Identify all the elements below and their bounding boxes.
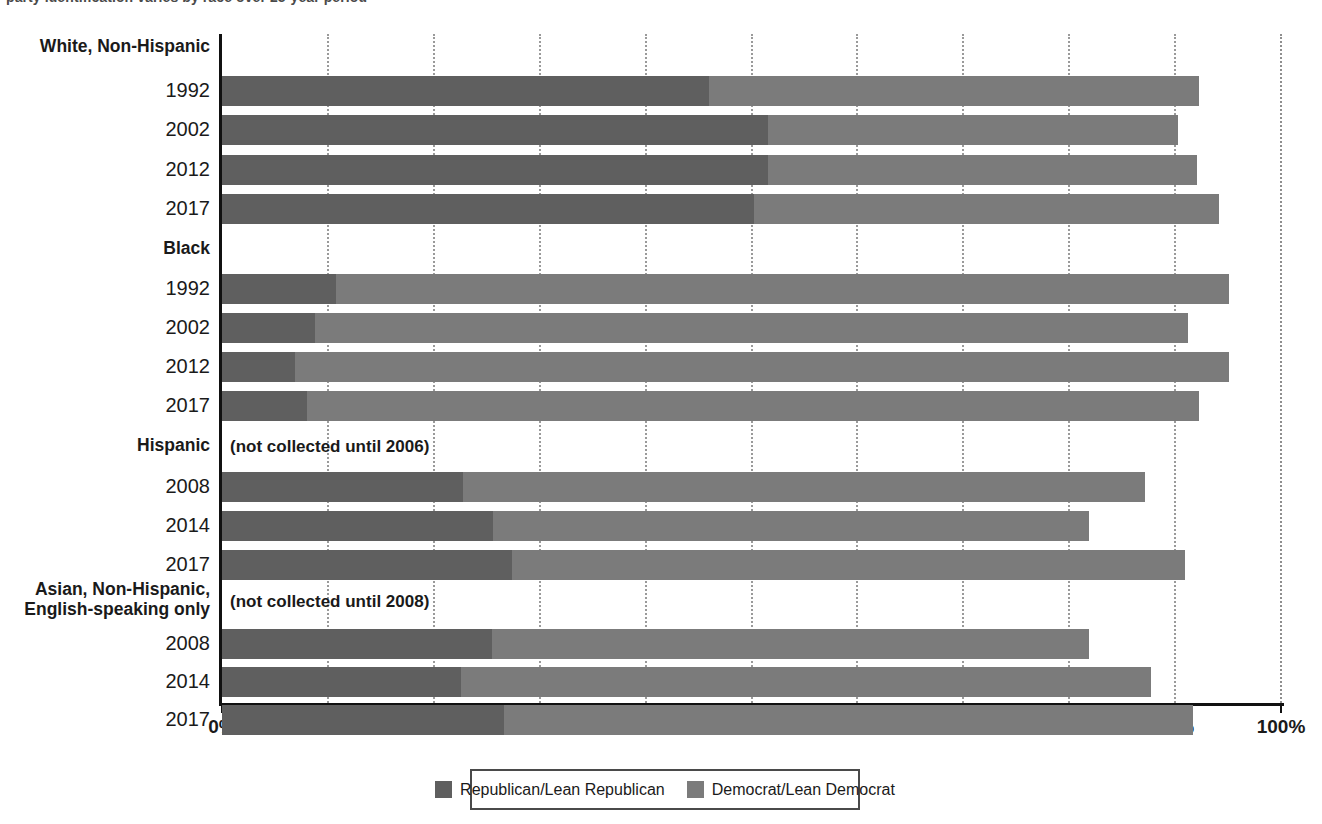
bar-segment-republican [222, 391, 307, 421]
stacked-bar [222, 352, 1229, 382]
bar-segment-republican [222, 472, 463, 502]
stacked-bar [222, 667, 1151, 697]
bar-segment-democrat [493, 511, 1089, 541]
bar-segment-democrat [512, 550, 1184, 580]
stacked-bar [222, 76, 1199, 106]
bar-segment-republican [222, 313, 315, 343]
bar-row [0, 76, 1322, 106]
bar-segment-republican [222, 194, 754, 224]
y-group-label-1: Black [163, 239, 210, 259]
bar-segment-democrat [768, 115, 1178, 145]
bar-row [0, 313, 1322, 343]
bar-segment-republican [222, 76, 709, 106]
bar-segment-democrat [709, 76, 1199, 106]
bar-row [0, 274, 1322, 304]
y-group-label-line: Asian, Non-Hispanic, [24, 580, 210, 600]
bar-row [0, 391, 1322, 421]
stacked-bar [222, 155, 1197, 185]
bar-segment-democrat [463, 472, 1145, 502]
legend-swatch-republican-icon [435, 781, 452, 798]
stacked-bar [222, 115, 1178, 145]
y-group-label-0: White, Non-Hispanic [40, 37, 210, 57]
bar-segment-republican [222, 667, 461, 697]
y-group-label-line: Hispanic [137, 436, 210, 456]
bar-segment-republican [222, 705, 504, 735]
bar-segment-democrat [754, 194, 1219, 224]
bar-segment-republican [222, 511, 493, 541]
bar-segment-republican [222, 274, 336, 304]
stacked-bar [222, 511, 1089, 541]
stacked-bar [222, 391, 1199, 421]
bar-segment-democrat [336, 274, 1229, 304]
y-group-label-line: Black [163, 239, 210, 259]
y-group-label-2: Hispanic [137, 436, 210, 456]
bar-segment-democrat [295, 352, 1229, 382]
bar-segment-democrat [492, 629, 1089, 659]
legend-label-democrat: Democrat/Lean Democrat [712, 781, 895, 799]
bar-row [0, 194, 1322, 224]
bar-segment-democrat [307, 391, 1200, 421]
bar-row [0, 667, 1322, 697]
y-group-label-3: Asian, Non-Hispanic,English-speaking onl… [24, 580, 210, 619]
bar-row [0, 352, 1322, 382]
stacked-bar [222, 629, 1089, 659]
legend: Republican/Lean Republican Democrat/Lean… [470, 769, 860, 810]
stacked-bar [222, 194, 1219, 224]
stacked-bar [222, 313, 1188, 343]
stacked-bar [222, 472, 1145, 502]
bar-row [0, 629, 1322, 659]
bar-segment-democrat [504, 705, 1193, 735]
stacked-bar [222, 550, 1185, 580]
legend-item-republican: Republican/Lean Republican [435, 781, 665, 799]
bar-row [0, 115, 1322, 145]
bar-row [0, 705, 1322, 735]
stacked-bar [222, 705, 1193, 735]
bar-segment-democrat [768, 155, 1197, 185]
group-note-2: (not collected until 2006) [230, 437, 429, 457]
bar-segment-republican [222, 352, 295, 382]
bar-segment-democrat [461, 667, 1150, 697]
bar-row [0, 550, 1322, 580]
stacked-bar [222, 274, 1229, 304]
bar-segment-republican [222, 629, 492, 659]
y-group-label-line: English-speaking only [24, 600, 210, 620]
group-note-3: (not collected until 2008) [230, 592, 429, 612]
bar-row [0, 155, 1322, 185]
bar-segment-republican [222, 155, 768, 185]
legend-label-republican: Republican/Lean Republican [460, 781, 665, 799]
bar-segment-republican [222, 550, 512, 580]
stacked-bar-chart: 0%10%20%30%40%50%60%70%80%90%100% White,… [0, 0, 1322, 824]
bar-segment-democrat [315, 313, 1188, 343]
bar-row [0, 472, 1322, 502]
legend-swatch-democrat-icon [687, 781, 704, 798]
bar-row [0, 511, 1322, 541]
y-group-label-line: White, Non-Hispanic [40, 37, 210, 57]
legend-item-democrat: Democrat/Lean Democrat [687, 781, 895, 799]
bar-segment-republican [222, 115, 768, 145]
